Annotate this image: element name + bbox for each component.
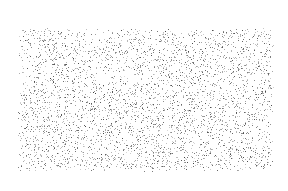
speckle-noise-texture — [17, 27, 275, 173]
noise-canvas — [17, 27, 275, 173]
